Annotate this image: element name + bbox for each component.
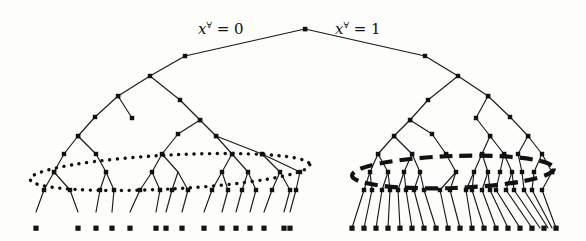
tree-nodes	[42, 27, 555, 192]
leaf-nodes	[33, 226, 558, 231]
left-branch-relation: = 0	[212, 20, 244, 38]
right-branch-label: x∀ = 1	[335, 20, 381, 38]
tree-diagram-svg	[0, 0, 586, 241]
tree-figure: x∀ = 0 x∀ = 1	[0, 0, 586, 241]
right-branch-relation: = 1	[349, 20, 381, 38]
left-branch-label: x∀ = 0	[198, 20, 244, 38]
tree-edges	[36, 29, 556, 228]
